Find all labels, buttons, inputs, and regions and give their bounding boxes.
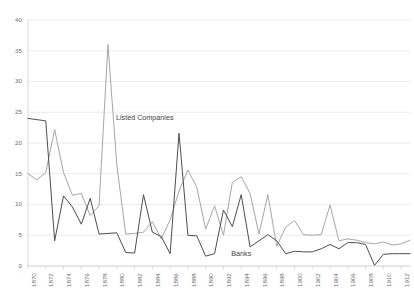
y-tick-label-15: 15 (6, 171, 22, 177)
plot-area (0, 0, 414, 299)
y-tick-label-35: 35 (6, 48, 22, 54)
x-tick-label-1898: 1898 (279, 273, 285, 287)
axis-lines (28, 20, 401, 269)
x-tick-label-1910: 1910 (386, 273, 392, 287)
x-tick-label-1902: 1902 (315, 273, 321, 287)
x-tick-label-1904: 1904 (333, 273, 339, 287)
y-tick-label-20: 20 (6, 140, 22, 146)
x-tick-label-1894: 1894 (244, 273, 250, 287)
x-tick-label-1890: 1890 (208, 273, 214, 287)
x-tick-label-1892: 1892 (226, 273, 232, 287)
x-tick-label-1906: 1906 (350, 273, 356, 287)
series-annotation-banks: Banks (231, 250, 251, 257)
data-series (28, 45, 410, 266)
x-tick-label-1882: 1882 (137, 273, 143, 287)
x-tick-label-1880: 1880 (119, 273, 125, 287)
y-tick-label-25: 25 (6, 109, 22, 115)
series-line-listed-companies (28, 45, 410, 247)
series-annotation-listed-companies: Listed Companies (116, 114, 174, 121)
series-line-banks (28, 118, 410, 265)
x-tick-label-1876: 1876 (84, 273, 90, 287)
y-tick-label-10: 10 (6, 201, 22, 207)
x-tick-label-1900: 1900 (297, 273, 303, 287)
x-tick-label-1884: 1884 (155, 273, 161, 287)
x-tick-label-1908: 1908 (368, 273, 374, 287)
x-tick-label-1888: 1888 (191, 273, 197, 287)
x-tick-label-1874: 1874 (66, 273, 72, 287)
gridlines (28, 20, 410, 266)
x-tick-label-1912: 1912 (404, 273, 410, 287)
y-tick-label-30: 30 (6, 78, 22, 84)
x-tick-label-1870: 1870 (31, 273, 37, 287)
y-tick-label-0: 0 (6, 263, 22, 269)
x-tick-label-1886: 1886 (173, 273, 179, 287)
y-tick-label-40: 40 (6, 17, 22, 23)
x-tick-label-1896: 1896 (262, 273, 268, 287)
x-tick-label-1878: 1878 (102, 273, 108, 287)
x-tick-label-1872: 1872 (48, 273, 54, 287)
line-chart: 0510152025303540 18701872187418761878188… (0, 0, 414, 299)
y-tick-label-5: 5 (6, 232, 22, 238)
